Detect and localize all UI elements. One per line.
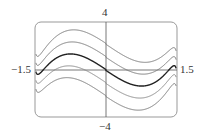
y-min-label: −4 (99, 121, 111, 132)
y-max-label: 4 (102, 7, 108, 18)
x-min-label: −1.5 (11, 64, 31, 75)
x-max-label: 1.5 (180, 64, 194, 75)
